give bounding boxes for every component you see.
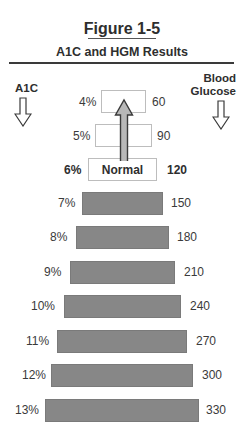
figure-title: Figure 1-5 [0, 20, 244, 38]
range-bar-13 [45, 399, 199, 422]
range-bar-7 [82, 192, 163, 215]
up-arrow-icon [114, 98, 134, 162]
title-underline [88, 38, 156, 39]
header-divider [9, 62, 234, 64]
a1c-value: 11% [26, 334, 49, 348]
range-bar-10 [64, 295, 181, 318]
glucose-value: 330 [206, 403, 226, 417]
glucose-value: 120 [167, 163, 187, 177]
range-bar-12 [51, 364, 193, 387]
a1c-value: 13% [15, 403, 39, 417]
a1c-value: 6% [64, 163, 81, 177]
a1c-value: 9% [44, 265, 61, 279]
down-arrow-icon [212, 100, 230, 130]
glucose-value: 210 [184, 265, 204, 279]
a1c-value: 7% [58, 196, 75, 210]
a1c-axis-label: A1C [15, 81, 38, 95]
glucose-value: 150 [171, 196, 191, 210]
a1c-value: 12% [22, 368, 46, 382]
a1c-value: 5% [73, 129, 90, 143]
glucose-value: 180 [177, 230, 197, 244]
glucose-value: 270 [196, 334, 216, 348]
glucose-axis-label-line2: Glucose [180, 84, 236, 98]
range-bar-11 [57, 330, 187, 353]
a1c-value: 10% [31, 299, 55, 313]
range-bar-9 [70, 261, 175, 284]
glucose-value: 240 [190, 299, 210, 313]
a1c-value: 8% [50, 230, 67, 244]
glucose-axis-label-line1: Blood [196, 71, 236, 85]
down-arrow-icon [14, 97, 32, 127]
glucose-value: 60 [152, 95, 165, 109]
range-bar-8 [76, 226, 169, 249]
glucose-value: 300 [202, 368, 222, 382]
figure-subtitle: A1C and HGM Results [0, 45, 244, 59]
normal-label: Normal [88, 163, 157, 177]
a1c-value: 4% [79, 95, 96, 109]
glucose-value: 90 [157, 129, 170, 143]
